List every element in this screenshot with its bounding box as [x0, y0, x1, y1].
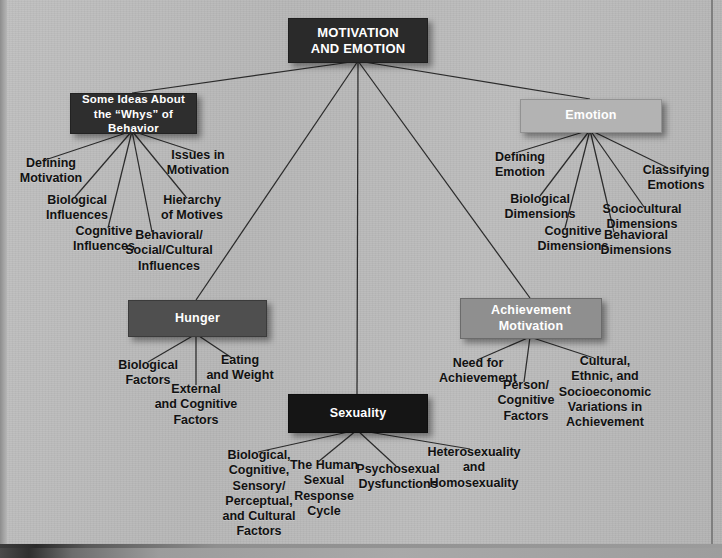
bottom-page-bar	[0, 544, 722, 558]
leaf-person-cognitive-factors: Person/ Cognitive Factors	[489, 378, 563, 424]
node-emotion[interactable]: Emotion	[520, 99, 662, 133]
leaf-hierarchy-of-motives: Hierarchy of Motives	[150, 193, 234, 224]
node-label: Achievement Motivation	[491, 303, 571, 334]
node-label: Sexuality	[330, 406, 387, 421]
node-sexuality[interactable]: Sexuality	[288, 394, 428, 433]
leaf-heterosexuality-and-homosexuality: Heterosexuality and Homosexuality	[422, 445, 526, 491]
node-motivation-and-emotion[interactable]: MOTIVATION AND EMOTION	[288, 18, 428, 63]
leaf-biological-influences: Biological Influences	[32, 193, 122, 224]
leaf-sociocultural-dimensions: Sociocultural Dimensions	[592, 202, 692, 233]
node-some-ideas-about-whys-of-behavior[interactable]: Some Ideas About the “Whys” of Behavior	[70, 93, 197, 134]
leaf-defining-motivation: Defining Motivation	[8, 156, 94, 187]
leaf-biological-dimensions: Biological Dimensions	[490, 192, 590, 223]
node-hunger[interactable]: Hunger	[128, 300, 267, 337]
node-achievement-motivation[interactable]: Achievement Motivation	[460, 298, 602, 339]
concept-map-page: MOTIVATION AND EMOTION Some Ideas About …	[0, 0, 722, 558]
leaf-cultural-ethnic-socioeconomic-variations-in-achievement: Cultural, Ethnic, and Socioeconomic Vari…	[553, 354, 657, 430]
node-label: Emotion	[565, 108, 616, 123]
leaf-issues-in-motivation: Issues in Motivation	[154, 148, 242, 179]
leaf-classifying-emotions: Classifying Emotions	[632, 163, 720, 194]
leaf-eating-and-weight: Eating and Weight	[196, 353, 284, 384]
leaf-defining-emotion: Defining Emotion	[479, 150, 561, 181]
node-label: Some Ideas About the “Whys” of Behavior	[71, 92, 196, 134]
leaf-external-and-cognitive-factors: External and Cognitive Factors	[142, 382, 250, 428]
node-label: Hunger	[175, 311, 220, 326]
node-label: MOTIVATION AND EMOTION	[311, 25, 406, 57]
leaf-behavioral-dimensions: Behavioral Dimensions	[588, 228, 684, 259]
leaf-behavioral-social-cultural-influences: Behavioral/ Social/Cultural Influences	[118, 228, 220, 274]
